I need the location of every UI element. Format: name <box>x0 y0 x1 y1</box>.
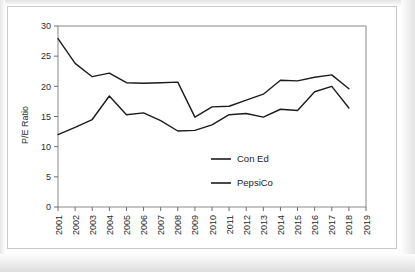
x-tick-label: 2018 <box>344 215 354 235</box>
x-tick-label: 2017 <box>327 215 337 235</box>
x-tick-label: 2003 <box>88 215 98 235</box>
page-edge-bottom <box>0 254 415 272</box>
x-tick-label: 2019 <box>362 215 372 235</box>
x-tick-label: 2015 <box>293 215 303 235</box>
y-tick-label: 25 <box>41 51 51 61</box>
series-line-pepsico <box>58 86 349 134</box>
page-edge-left <box>0 0 5 272</box>
page-edge-top <box>0 0 415 5</box>
x-axis-ticks: 2001200220032004200520062007200820092010… <box>54 207 372 235</box>
x-tick-label: 2016 <box>310 215 320 235</box>
chart-legend: Con EdPepsiCo <box>211 153 273 188</box>
x-tick-label: 2014 <box>276 215 286 235</box>
y-tick-label: 30 <box>41 21 51 31</box>
x-tick-label: 2007 <box>156 215 166 235</box>
x-tick-label: 2002 <box>71 215 81 235</box>
chart-figure: P/E Ratio 051015202530 20012002200320042… <box>7 6 397 249</box>
legend-label-pepsico: PepsiCo <box>237 177 273 188</box>
y-axis-title: P/E Ratio <box>20 106 30 144</box>
plot-frame <box>58 26 366 207</box>
x-tick-label: 2001 <box>54 215 64 235</box>
x-tick-label: 2011 <box>225 215 235 234</box>
y-tick-label: 0 <box>46 202 51 212</box>
x-tick-label: 2010 <box>208 215 218 235</box>
x-tick-label: 2008 <box>173 215 183 235</box>
series-group <box>58 39 349 135</box>
y-tick-label: 20 <box>41 82 51 92</box>
legend-label-con-ed: Con Ed <box>237 153 269 164</box>
page-canvas: P/E Ratio 051015202530 20012002200320042… <box>0 0 415 272</box>
line-chart: P/E Ratio 051015202530 20012002200320042… <box>8 7 396 248</box>
x-tick-label: 2006 <box>139 215 149 235</box>
y-tick-label: 5 <box>46 172 51 182</box>
x-tick-label: 2004 <box>105 215 115 235</box>
y-axis-ticks: 051015202530 <box>41 21 58 212</box>
series-line-con-ed <box>58 39 349 117</box>
x-tick-label: 2013 <box>259 215 269 235</box>
x-tick-label: 2012 <box>242 215 252 235</box>
x-tick-label: 2005 <box>122 215 132 235</box>
y-tick-label: 10 <box>41 142 51 152</box>
y-tick-label: 15 <box>41 112 51 122</box>
x-tick-label: 2009 <box>190 215 200 235</box>
page-edge-right <box>401 0 415 272</box>
